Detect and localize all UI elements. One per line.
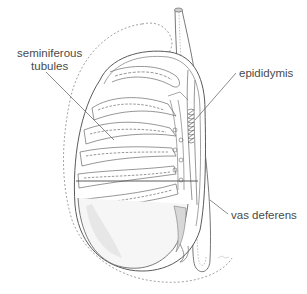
label-seminiferous-line1: seminiferous: [17, 47, 82, 60]
label-seminiferous-tubules: seminiferous tubules: [17, 47, 82, 73]
label-epididymis: epididymis: [239, 67, 293, 80]
testis-diagram: [0, 0, 307, 294]
artist-signature: [218, 256, 229, 258]
leader-vas-deferens: [210, 200, 228, 214]
label-vas-deferens: vas deferens: [231, 209, 297, 222]
label-seminiferous-line2: tubules: [17, 60, 82, 73]
